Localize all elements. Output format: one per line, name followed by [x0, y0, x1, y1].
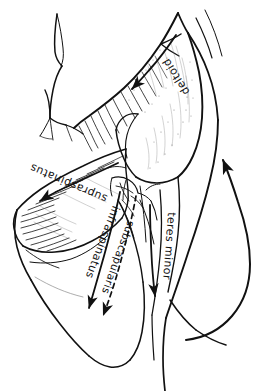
shoulder-anatomy-drawing: deltoid supraspinatus infraspinatus subs…	[0, 0, 277, 391]
anatomical-figure: deltoid supraspinatus infraspinatus subs…	[0, 0, 277, 391]
